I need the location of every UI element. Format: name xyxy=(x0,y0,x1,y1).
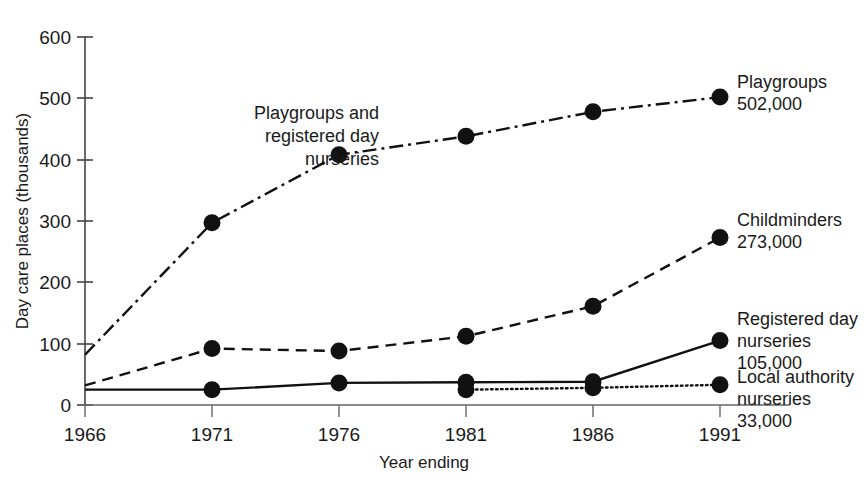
label-registered-name-line2: nurseries xyxy=(737,331,811,351)
day-care-places-line-chart: 600 500 400 300 200 100 0 Day care place… xyxy=(0,0,868,482)
label-local-value: 33,000 xyxy=(737,411,792,431)
data-point-marker xyxy=(585,379,602,396)
y-tick-label-600: 600 xyxy=(39,27,71,48)
y-tick-label-500: 500 xyxy=(39,88,71,109)
x-tick-label-1966: 1966 xyxy=(64,424,106,445)
series-line-registered-day-nurseries xyxy=(85,341,720,390)
series-label-local-authority-nurseries: Local authority nurseries 33,000 xyxy=(737,367,854,431)
data-point-marker xyxy=(331,343,348,360)
data-point-marker xyxy=(204,381,221,398)
series-layer xyxy=(85,97,720,390)
x-tick-label-1986: 1986 xyxy=(572,424,614,445)
series-line-childminders xyxy=(85,238,720,386)
data-point-marker xyxy=(712,229,729,246)
annotation-line-1: Playgroups and xyxy=(254,103,379,123)
data-point-marker xyxy=(585,103,602,120)
label-playgroups-name: Playgroups xyxy=(737,72,827,92)
label-local-name-line2: nurseries xyxy=(737,389,811,409)
chart-canvas: 600 500 400 300 200 100 0 Day care place… xyxy=(0,0,868,482)
x-tick-label-1981: 1981 xyxy=(445,424,487,445)
y-tick-label-0: 0 xyxy=(60,395,71,416)
data-point-marker xyxy=(712,332,729,349)
data-point-marker xyxy=(204,340,221,357)
data-point-marker xyxy=(585,298,602,315)
x-tick-label-1976: 1976 xyxy=(318,424,360,445)
y-tick-label-400: 400 xyxy=(39,150,71,171)
series-label-childminders: Childminders 273,000 xyxy=(737,210,842,252)
y-tick-label-200: 200 xyxy=(39,272,71,293)
series-label-playgroups: Playgroups 502,000 xyxy=(737,72,827,114)
label-childminders-value: 273,000 xyxy=(737,232,802,252)
label-registered-name-line1: Registered day xyxy=(737,309,858,329)
y-axis: 600 500 400 300 200 100 0 xyxy=(39,27,93,416)
series-line-playgroups xyxy=(85,97,720,355)
y-tick-label-300: 300 xyxy=(39,211,71,232)
data-point-marker xyxy=(712,376,729,393)
x-axis-title: Year ending xyxy=(379,453,469,472)
label-playgroups-value: 502,000 xyxy=(737,94,802,114)
data-point-marker xyxy=(331,374,348,391)
data-point-marker xyxy=(712,89,729,106)
x-tick-label-1991: 1991 xyxy=(699,424,741,445)
series-label-registered-day-nurseries: Registered day nurseries 105,000 xyxy=(737,309,858,373)
x-axis: 1966 1971 1976 1981 1986 1991 xyxy=(64,405,790,445)
data-point-marker xyxy=(458,128,475,145)
annotation-line-2: registered day xyxy=(265,126,379,146)
annotation-line-3: nurseries xyxy=(305,149,379,169)
y-tick-label-100: 100 xyxy=(39,334,71,355)
label-childminders-name: Childminders xyxy=(737,210,842,230)
y-axis-title: Day care places (thousands) xyxy=(13,113,32,329)
x-tick-label-1971: 1971 xyxy=(191,424,233,445)
label-local-name-line1: Local authority xyxy=(737,367,854,387)
data-point-marker xyxy=(204,214,221,231)
chart-annotation-playgroups-registered: Playgroups and registered day nurseries xyxy=(254,103,379,169)
data-point-marker xyxy=(458,328,475,345)
data-point-marker xyxy=(458,381,475,398)
